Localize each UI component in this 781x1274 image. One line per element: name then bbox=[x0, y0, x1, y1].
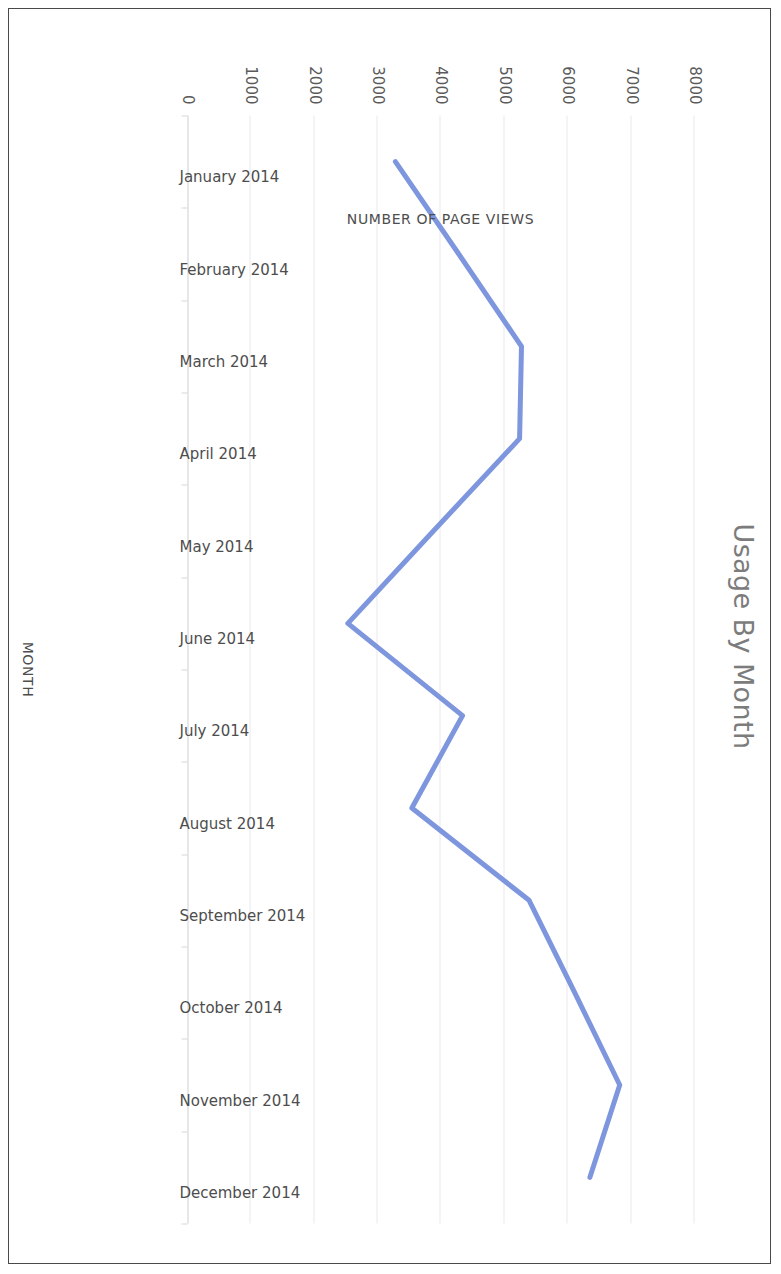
y-tick-label: 4000 bbox=[433, 15, 451, 105]
x-tick-label: September 2014 bbox=[180, 907, 306, 925]
y-tick-label: 3000 bbox=[369, 15, 387, 105]
x-tick-label: January 2014 bbox=[180, 168, 280, 186]
x-tick-label: August 2014 bbox=[180, 815, 275, 833]
x-tick-label: June 2014 bbox=[180, 630, 256, 648]
x-tick-label: March 2014 bbox=[180, 353, 269, 371]
line-chart: Usage By Month 0100020003000400050006000… bbox=[0, 0, 781, 1274]
x-tick-label: July 2014 bbox=[180, 722, 250, 740]
y-tick-label: 7000 bbox=[623, 15, 641, 105]
series-polyline bbox=[348, 162, 620, 1178]
x-tick-mark bbox=[182, 1224, 188, 1225]
x-tick-label: April 2014 bbox=[180, 445, 257, 463]
x-tick-label: October 2014 bbox=[180, 999, 283, 1017]
x-axis-title: MONTH bbox=[20, 116, 36, 1224]
series-line bbox=[188, 116, 695, 1224]
x-tick-label: December 2014 bbox=[180, 1184, 301, 1202]
upside-down-rotation-wrapper: Usage By Month 0100020003000400050006000… bbox=[0, 0, 781, 1274]
y-axis-title: NUMBER OF PAGE VIEWS bbox=[348, 212, 535, 228]
plot-area: 010002000300040005000600070008000 NUMBER… bbox=[188, 116, 695, 1224]
y-tick-label: 6000 bbox=[559, 15, 577, 105]
plot-inner: 010002000300040005000600070008000 bbox=[188, 116, 695, 1224]
x-tick-label: May 2014 bbox=[180, 538, 254, 556]
y-tick-label: 1000 bbox=[242, 15, 260, 105]
x-tick-label: February 2014 bbox=[180, 261, 289, 279]
chart-title: Usage By Month bbox=[728, 0, 759, 1274]
x-axis-labels: MONTH January 2014February 2014March 201… bbox=[38, 116, 188, 1224]
y-tick-label: 2000 bbox=[306, 15, 324, 105]
scanned-chart-page: Usage By Month 0100020003000400050006000… bbox=[0, 0, 781, 1274]
y-tick-label: 8000 bbox=[686, 15, 704, 105]
y-tick-label: 5000 bbox=[496, 15, 514, 105]
y-tick-label: 0 bbox=[179, 15, 197, 105]
x-tick-label: November 2014 bbox=[180, 1092, 301, 1110]
